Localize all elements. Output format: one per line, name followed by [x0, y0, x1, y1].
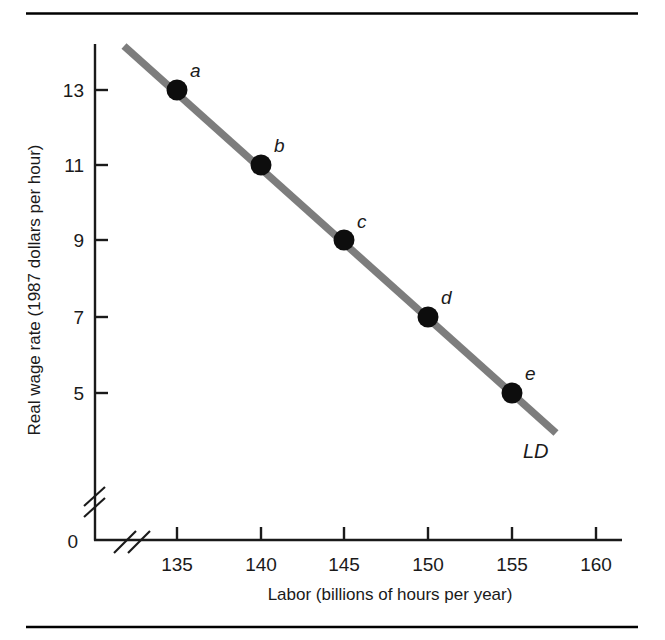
- data-point-c[interactable]: [334, 230, 355, 251]
- x-tick-label-150: 150: [412, 554, 444, 575]
- y-tick-label-7: 7: [73, 307, 84, 328]
- y-tick-label-5: 5: [73, 383, 84, 404]
- curve-label-ld: LD: [523, 440, 549, 462]
- y-tick-label-13: 13: [63, 80, 84, 101]
- data-point-label-c: c: [357, 211, 367, 232]
- data-point-label-a: a: [190, 60, 201, 81]
- x-tick-label-145: 145: [328, 554, 360, 575]
- x-axis-break-icon: [114, 531, 150, 553]
- data-point-d[interactable]: [418, 307, 439, 328]
- data-point-label-b: b: [274, 135, 285, 156]
- x-axis-ticks: [177, 527, 596, 540]
- x-tick-label-135: 135: [161, 554, 193, 575]
- x-tick-label-160: 160: [580, 554, 612, 575]
- data-point-a[interactable]: [167, 80, 188, 101]
- y-axis-ticks: [95, 90, 108, 393]
- y-tick-label-9: 9: [73, 230, 84, 251]
- x-tick-label-155: 155: [496, 554, 528, 575]
- figure-container: 13 11 9 7 5 0 135 140 145 150 155 160 Re…: [0, 0, 665, 640]
- origin-label-zero: 0: [67, 531, 78, 552]
- x-tick-label-140: 140: [245, 554, 277, 575]
- y-axis-title: Real wage rate (1987 dollars per hour): [25, 144, 44, 435]
- data-point-b[interactable]: [251, 155, 272, 176]
- data-point-label-d: d: [441, 287, 453, 308]
- labor-demand-chart: 13 11 9 7 5 0 135 140 145 150 155 160 Re…: [0, 0, 665, 640]
- y-tick-label-11: 11: [64, 155, 84, 176]
- data-point-label-e: e: [525, 363, 536, 384]
- x-axis-title: Labor (billions of hours per year): [268, 585, 513, 604]
- data-point-e[interactable]: [502, 383, 523, 404]
